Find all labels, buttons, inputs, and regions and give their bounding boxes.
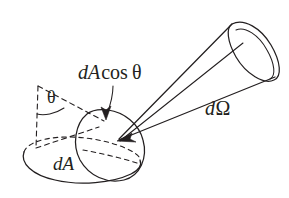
surface-normal-dashed-line — [36, 86, 38, 148]
projected-area-hidden-chord — [83, 150, 140, 164]
figure-canvas: dAcosθ dΩ dA θ — [0, 0, 289, 198]
solid-angle-diagram: dAcosθ dΩ dA θ — [0, 0, 289, 198]
theta-angle-arc — [37, 108, 64, 115]
label-solid-angle-italic: d — [205, 97, 216, 119]
label-theta-angle: θ — [47, 87, 56, 107]
projected-area-group — [76, 110, 145, 181]
projected-area-callout-group — [101, 86, 113, 120]
cone-aperture-inner-rim — [236, 29, 274, 79]
label-projected-area-italic: dA — [78, 61, 101, 83]
projected-area-ellipse-outline — [76, 110, 145, 181]
cone-axis-ray — [120, 43, 243, 141]
base-area-ellipse-front-arc — [23, 152, 140, 183]
base-plane-dashed-line — [36, 127, 99, 148]
label-solid-angle: dΩ — [205, 97, 230, 119]
label-area-element: dA — [53, 153, 75, 174]
label-projected-area: dAcosθ — [78, 61, 141, 83]
cone-aperture-ellipse-outline — [228, 22, 279, 81]
label-solid-angle-omega: Ω — [216, 97, 231, 119]
base-area-group — [23, 137, 140, 183]
cone-lower-edge — [119, 77, 275, 140]
label-projected-area-theta: θ — [132, 61, 142, 83]
label-projected-area-upright: cos — [101, 61, 128, 83]
projected-area-callout-arrowhead — [101, 106, 111, 120]
